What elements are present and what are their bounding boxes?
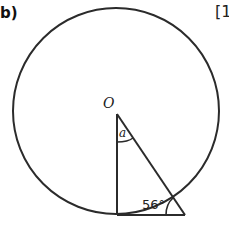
angle-a-label: a bbox=[119, 126, 126, 140]
center-label: O bbox=[103, 95, 115, 111]
angle-56-label: 56° bbox=[142, 197, 165, 212]
circle-diagram: O a 56° bbox=[0, 0, 229, 228]
